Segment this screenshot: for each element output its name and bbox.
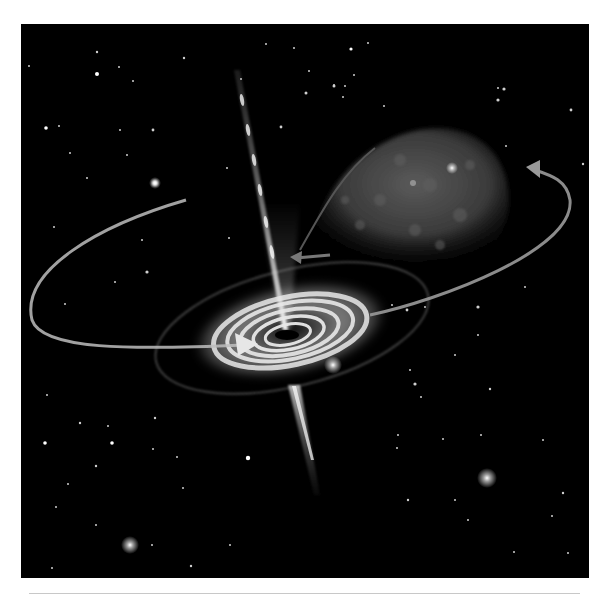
- lower-jet: [288, 385, 320, 495]
- accretion-disk: [185, 266, 395, 395]
- illustration-canvas: [21, 24, 589, 578]
- black-hole-illustration: [21, 24, 589, 578]
- bright-star-near-disk: [324, 356, 342, 374]
- companion-star: [290, 128, 509, 268]
- divider-rule: [29, 593, 580, 594]
